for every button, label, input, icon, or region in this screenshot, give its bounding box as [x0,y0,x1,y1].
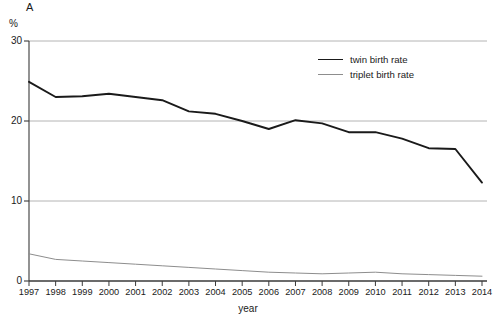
series-line-triplet-birth-rate [29,254,482,276]
x-axis-tick-marks [29,281,482,286]
y-tick-label: 0 [0,275,22,286]
x-tick-label: 2003 [174,287,204,297]
x-tick-label: 2014 [467,287,496,297]
y-tick-label: 30 [0,35,22,46]
legend-item-triplet: triplet birth rate [318,67,414,82]
x-tick-label: 2002 [147,287,177,297]
x-tick-label: 1999 [67,287,97,297]
chart-legend: twin birth rate triplet birth rate [318,52,414,82]
chart-panel-a: A % 0102030 1997199819992000200120022003… [0,0,496,323]
y-tick-label: 20 [0,115,22,126]
x-tick-label: 2004 [201,287,231,297]
y-tick-label: 10 [0,195,22,206]
x-tick-label: 2005 [227,287,257,297]
x-tick-label: 2012 [414,287,444,297]
legend-label-triplet: triplet birth rate [350,69,414,80]
x-tick-label: 2006 [254,287,284,297]
x-tick-label: 2001 [121,287,151,297]
x-tick-label: 1998 [41,287,71,297]
plot-area [0,0,496,323]
y-axis-tick-marks [24,41,29,281]
legend-item-twin: twin birth rate [318,52,414,67]
data-series-lines [29,82,482,276]
x-tick-label: 2007 [280,287,310,297]
x-tick-label: 2010 [360,287,390,297]
x-tick-label: 2009 [334,287,364,297]
series-line-twin-birth-rate [29,82,482,183]
x-tick-label: 2011 [387,287,417,297]
legend-line-icon-twin [318,59,343,60]
x-tick-label: 2000 [94,287,124,297]
legend-label-twin: twin birth rate [350,54,408,65]
legend-line-icon-triplet [318,74,343,75]
x-tick-label: 2008 [307,287,337,297]
x-axis-title: year [0,303,496,314]
x-tick-label: 2013 [440,287,470,297]
gridlines [29,41,487,281]
x-tick-label: 1997 [14,287,44,297]
